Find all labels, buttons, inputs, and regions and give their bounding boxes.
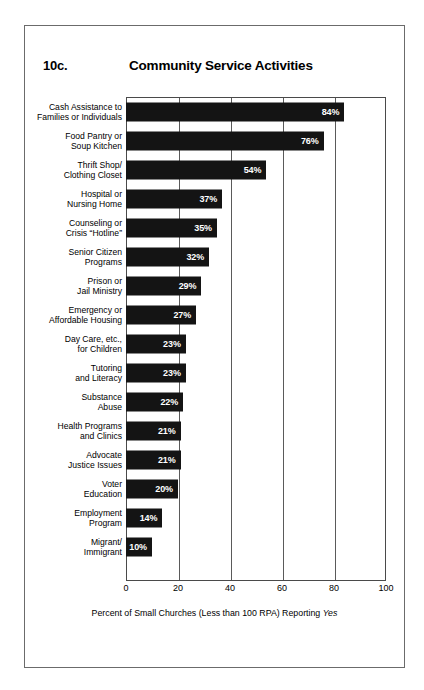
bar: 54% (126, 160, 266, 179)
bar-category-label-line: Emergency or (49, 304, 122, 314)
bar-category-label-line: Clothing Closet (64, 170, 122, 180)
bar-track: 21% (126, 445, 386, 474)
bar-rows: Cash Assistance toFamilies or Individual… (25, 97, 404, 561)
bar-category-label-line: Food Pantry or (65, 130, 122, 140)
bar-category-label-line: Thrift Shop/ (64, 159, 122, 169)
bar-category-label: SubstanceAbuse (81, 391, 122, 411)
bar-value-label: 23% (163, 368, 186, 378)
bar-row: Senior CitizenPrograms32% (25, 242, 404, 271)
bar-chart: Cash Assistance toFamilies or Individual… (25, 26, 404, 667)
x-tick-label: 80 (329, 583, 339, 593)
bar-category-label: Tutoringand Literacy (75, 362, 122, 382)
bar-category-label-line: and Literacy (75, 373, 122, 383)
x-axis-caption-emphasis: Yes (323, 608, 338, 618)
bar-category-label-line: Nursing Home (67, 199, 122, 209)
bar-row: Health Programsand Clinics21% (25, 416, 404, 445)
bar-value-label: 22% (160, 397, 183, 407)
bar: 21% (126, 421, 181, 440)
bar-category-label: Emergency orAffordable Housing (49, 304, 122, 324)
bar-category-label: AdvocateJustice Issues (68, 449, 122, 469)
bar-category-label: Day Care, etc.,for Children (65, 333, 122, 353)
bar-category-label-line: Jail Ministry (77, 286, 122, 296)
bar-value-label: 84% (322, 107, 345, 117)
bar: 84% (126, 102, 344, 121)
bar: 76% (126, 131, 324, 150)
bar-value-label: 29% (179, 281, 202, 291)
bar-value-label: 54% (244, 165, 267, 175)
bar-track: 22% (126, 387, 386, 416)
bar-category-label-line: Crisis “Hotline” (66, 228, 122, 238)
bar-value-label: 35% (194, 223, 217, 233)
bar-value-label: 21% (158, 426, 181, 436)
x-tick-label: 0 (123, 583, 128, 593)
bar-category-label-line: Substance (81, 391, 122, 401)
bar-value-label: 20% (155, 484, 178, 494)
bar-row: EmploymentProgram14% (25, 503, 404, 532)
bar: 35% (126, 218, 217, 237)
bar-value-label: 10% (129, 542, 152, 552)
bar-category-label-line: Advocate (68, 449, 122, 459)
bar-category-label: VoterEducation (84, 478, 122, 498)
bar-row: Cash Assistance toFamilies or Individual… (25, 97, 404, 126)
bar-row: Counseling orCrisis “Hotline”35% (25, 213, 404, 242)
bar-row: Emergency orAffordable Housing27% (25, 300, 404, 329)
bar: 20% (126, 479, 178, 498)
bar-category-label-line: and Clinics (58, 431, 122, 441)
bar-category-label-line: for Children (65, 344, 122, 354)
bar-category-label-line: Day Care, etc., (65, 333, 122, 343)
bar-category-label: Senior CitizenPrograms (69, 246, 123, 266)
bar: 32% (126, 247, 209, 266)
bar-value-label: 76% (301, 136, 324, 146)
x-tick-label: 60 (277, 583, 287, 593)
bar-category-label: Health Programsand Clinics (58, 420, 122, 440)
bar: 21% (126, 450, 181, 469)
bar-category-label: Prison orJail Ministry (77, 275, 122, 295)
bar-track: 27% (126, 300, 386, 329)
x-axis-caption: Percent of Small Churches (Less than 100… (25, 608, 404, 618)
bar-value-label: 21% (158, 455, 181, 465)
bar-row: Prison orJail Ministry29% (25, 271, 404, 300)
bar-category-label-line: Senior Citizen (69, 246, 123, 256)
bar-value-label: 23% (163, 339, 186, 349)
bar-track: 10% (126, 532, 386, 561)
bar-row: Tutoringand Literacy23% (25, 358, 404, 387)
bar-category-label-line: Prison or (77, 275, 122, 285)
bar-track: 20% (126, 474, 386, 503)
bar-category-label-line: Affordable Housing (49, 315, 122, 325)
bar-track: 23% (126, 329, 386, 358)
x-tick-label: 40 (225, 583, 235, 593)
figure-frame: 10c. Community Service Activities Cash A… (24, 25, 405, 668)
bar-row: Day Care, etc.,for Children23% (25, 329, 404, 358)
bar-category-label-line: Immigrant (84, 547, 122, 557)
bar-category-label-line: Abuse (81, 402, 122, 412)
x-tick-label: 20 (173, 583, 183, 593)
bar-value-label: 27% (173, 310, 196, 320)
bar: 27% (126, 305, 196, 324)
bar-category-label: Cash Assistance toFamilies or Individual… (37, 101, 122, 121)
bar-track: 76% (126, 126, 386, 155)
bar-track: 35% (126, 213, 386, 242)
bar-category-label-line: Counseling or (66, 217, 122, 227)
bar-category-label: Hospital orNursing Home (67, 188, 122, 208)
bar-row: AdvocateJustice Issues21% (25, 445, 404, 474)
bar-track: 54% (126, 155, 386, 184)
bar-track: 29% (126, 271, 386, 300)
bar-track: 23% (126, 358, 386, 387)
bar-category-label-line: Employment (74, 507, 122, 517)
bar: 10% (126, 537, 152, 556)
bar-value-label: 32% (186, 252, 209, 262)
bar-category-label: Counseling orCrisis “Hotline” (66, 217, 122, 237)
bar-category-label-line: Families or Individuals (37, 112, 122, 122)
bar-category-label-line: Programs (69, 257, 123, 267)
bar: 23% (126, 363, 186, 382)
bar-category-label-line: Health Programs (58, 420, 122, 430)
x-axis-caption-text: Percent of Small Churches (Less than 100… (92, 608, 323, 618)
bar: 29% (126, 276, 201, 295)
x-tick-label: 100 (378, 583, 393, 593)
bar: 22% (126, 392, 183, 411)
bar: 37% (126, 189, 222, 208)
bar-row: VoterEducation20% (25, 474, 404, 503)
bar-category-label: Migrant/Immigrant (84, 536, 122, 556)
bar-category-label-line: Migrant/ (84, 536, 122, 546)
bar-category-label-line: Education (84, 489, 122, 499)
